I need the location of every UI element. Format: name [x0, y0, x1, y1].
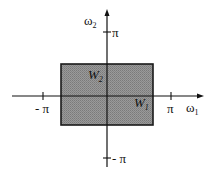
w2-region-label: W2 — [88, 68, 103, 81]
omega1-neg-pi-label: - π — [35, 102, 49, 115]
omega2-axis-label: ω2 — [84, 14, 97, 27]
omega2-subscript: 2 — [93, 21, 97, 30]
w1-symbol: W — [134, 95, 145, 110]
omega1-subscript: 1 — [195, 108, 199, 117]
omega2-arrowhead-icon — [105, 9, 110, 16]
omega2-pos-pi-label: π — [112, 26, 119, 39]
frequency-plane-diagram — [0, 0, 212, 177]
w2-symbol: W — [88, 67, 99, 82]
omega1-symbol: ω — [186, 100, 195, 115]
w1-subscript: 1 — [145, 103, 149, 112]
omega1-pos-pi-label: π — [167, 102, 174, 115]
omega2-symbol: ω — [84, 13, 93, 28]
w2-subscript: 2 — [99, 75, 103, 84]
w1-region-label: W1 — [134, 96, 149, 109]
omega1-axis-label: ω1 — [186, 101, 199, 114]
omega2-neg-pi-label: - π — [112, 152, 126, 165]
omega1-arrowhead-icon — [197, 94, 204, 99]
